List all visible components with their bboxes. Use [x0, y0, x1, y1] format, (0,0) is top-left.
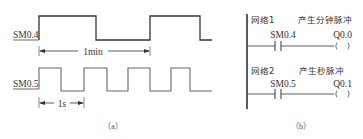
signal-label-sm05: SM0.5: [13, 79, 39, 89]
coil-icon: [336, 91, 337, 98]
network-1-title: 网络1: [251, 15, 274, 25]
timing-and-ladder-figure: SM0.4 1min SM0.5 1s （a） 网络1 产生分钟脉冲 SM0.4…: [0, 0, 363, 139]
network-2-rung: [247, 89, 349, 99]
sm04-waveform: [39, 16, 212, 40]
timing-diagram: SM0.4 1min SM0.5 1s （a）: [13, 16, 212, 131]
caption-a: （a）: [103, 122, 123, 131]
period-label-1min: 1min: [83, 47, 103, 57]
network-1-comment: 产生分钟脉冲: [298, 15, 352, 25]
network-2-comment: 产生秒脉冲: [299, 66, 344, 76]
network-1-coil-label: Q0.0: [333, 30, 352, 40]
network-1-contact-label: SM0.4: [270, 30, 296, 40]
network-1-rung: [247, 41, 349, 51]
ladder-diagram: 网络1 产生分钟脉冲 SM0.4 Q0.0 网络2 产生秒脉冲 SM0.5 Q0…: [247, 14, 352, 131]
coil-icon: [336, 43, 337, 50]
signal-label-sm04: SM0.4: [13, 30, 39, 40]
caption-b: （b）: [291, 122, 311, 131]
network-2-title: 网络2: [251, 66, 274, 76]
network-2-coil-label: Q0.1: [333, 79, 352, 89]
period-label-1s: 1s: [58, 99, 67, 109]
sm05-waveform: [39, 68, 212, 91]
network-2-contact-label: SM0.5: [270, 79, 296, 89]
